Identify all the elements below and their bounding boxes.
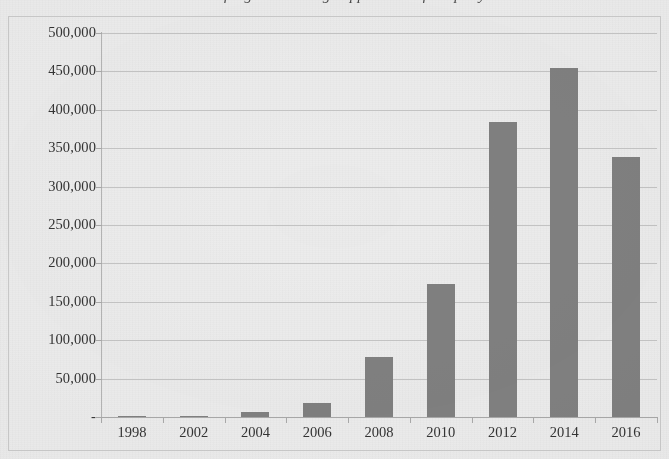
x-axis-label-1998: 1998	[101, 424, 163, 441]
x-tick-mark-2004	[225, 418, 226, 423]
y-tick-mark-350000	[96, 148, 102, 149]
y-axis-label-500000: 500,000	[8, 24, 96, 41]
plot-area	[101, 33, 657, 417]
x-axis-label-2012: 2012	[472, 424, 534, 441]
x-axis-label-2014: 2014	[533, 424, 595, 441]
y-axis-label-250000: 250,000	[8, 216, 96, 233]
y-tick-mark-400000	[96, 110, 102, 111]
gridline-500000	[101, 33, 657, 34]
x-axis-label-2016: 2016	[595, 424, 657, 441]
y-tick-mark-150000	[96, 302, 102, 303]
x-axis-line	[101, 417, 658, 418]
bar-2016[interactable]	[612, 157, 640, 417]
bar-2006[interactable]	[303, 403, 331, 417]
y-axis-label-150000: 150,000	[8, 293, 96, 310]
y-tick-mark-200000	[96, 263, 102, 264]
x-tick-mark-2014	[533, 418, 534, 423]
x-axis-label-2010: 2010	[410, 424, 472, 441]
y-tick-mark-250000	[96, 225, 102, 226]
x-tick-mark-2006	[286, 418, 287, 423]
chart-title: Number of registered design applications…	[0, 0, 669, 4]
y-axis-label-200000: 200,000	[8, 254, 96, 271]
x-tick-mark-1998	[101, 418, 102, 423]
y-tick-mark-300000	[96, 187, 102, 188]
y-tick-mark-500000	[96, 33, 102, 34]
y-axis-label-350000: 350,000	[8, 139, 96, 156]
x-axis-label-2006: 2006	[286, 424, 348, 441]
y-tick-mark-450000	[96, 71, 102, 72]
y-axis-label-300000: 300,000	[8, 178, 96, 195]
chart-title-clipped-strip: Number of registered design applications…	[0, 0, 669, 13]
chart-page: Number of registered design applications…	[0, 0, 669, 459]
x-tick-mark-2002	[163, 418, 164, 423]
bar-2014[interactable]	[550, 68, 578, 417]
y-axis-label-50000: 50,000	[8, 370, 96, 387]
y-axis-labels: -50,000100,000150,000200,000250,000300,0…	[0, 0, 96, 459]
x-axis-label-2008: 2008	[348, 424, 410, 441]
x-tick-mark-2008	[348, 418, 349, 423]
y-axis-label-450000: 450,000	[8, 62, 96, 79]
y-tick-mark-50000	[96, 379, 102, 380]
x-tick-mark-2016	[595, 418, 596, 423]
x-tick-mark-end	[657, 418, 658, 423]
y-axis-label-0: -	[8, 408, 96, 425]
x-axis-label-2004: 2004	[225, 424, 287, 441]
y-axis-label-400000: 400,000	[8, 101, 96, 118]
x-axis-label-2002: 2002	[163, 424, 225, 441]
bar-2008[interactable]	[365, 357, 393, 417]
x-tick-mark-2010	[410, 418, 411, 423]
y-tick-mark-100000	[96, 340, 102, 341]
bar-2010[interactable]	[427, 284, 455, 417]
y-axis-label-100000: 100,000	[8, 331, 96, 348]
bar-2012[interactable]	[489, 122, 517, 417]
x-tick-mark-2012	[472, 418, 473, 423]
